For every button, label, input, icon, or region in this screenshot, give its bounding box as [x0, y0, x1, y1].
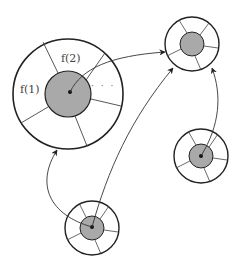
node-bottom [65, 201, 119, 255]
diagram-canvas: f(1) f(2) · · · [0, 0, 242, 271]
label-f1: f(1) [20, 83, 40, 96]
label-f2: f(2) [61, 52, 81, 65]
node-top-right [165, 17, 219, 71]
label-ellipsis: · · · [91, 81, 115, 91]
node-big: f(1) f(2) · · · [13, 39, 123, 149]
node-big-core [45, 71, 91, 117]
